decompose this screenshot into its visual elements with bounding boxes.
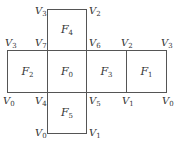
vertex-subscript: 5 <box>96 100 100 108</box>
face-letter: F <box>100 64 108 77</box>
vertex-subscript: 4 <box>42 100 46 108</box>
face-letter: F <box>61 64 69 77</box>
vertex-label-v3: V3 <box>5 38 17 50</box>
face-subscript: 3 <box>108 70 112 78</box>
vertex-subscript: 0 <box>169 100 173 108</box>
vertex-label-v2: V2 <box>121 38 133 50</box>
vertex-label-v0: V0 <box>162 96 174 108</box>
vertex-subscript: 3 <box>42 10 46 18</box>
face-label-f3: F3 <box>100 65 112 78</box>
vertex-label-v5: V5 <box>89 96 101 108</box>
vertex-label-v3: V3 <box>35 6 47 18</box>
vertex-label-v7: V7 <box>35 38 47 50</box>
vertex-subscript: 6 <box>96 42 100 50</box>
vertex-subscript: 7 <box>42 42 46 50</box>
vertex-subscript: 3 <box>12 42 16 50</box>
vertex-subscript: 2 <box>96 10 100 18</box>
vertex-subscript: 3 <box>168 42 172 50</box>
face-label-f2: F2 <box>21 65 33 78</box>
vertex-label-v1: V1 <box>89 128 101 140</box>
vertex-label-v0: V0 <box>35 128 47 140</box>
vertex-subscript: 2 <box>128 42 132 50</box>
face-letter: F <box>61 23 69 36</box>
cube-net-diagram: F4F2F0F3F1F5V3V2V3V7V6V2V3V0V4V5V1V0V0V1 <box>0 0 175 146</box>
face-subscript: 4 <box>69 29 73 37</box>
face-subscript: 5 <box>69 112 73 120</box>
vertex-subscript: 1 <box>129 100 133 108</box>
vertex-label-v1: V1 <box>122 96 134 108</box>
face-label-f0: F0 <box>61 65 73 78</box>
vertex-subscript: 0 <box>42 132 46 140</box>
vertex-subscript: 1 <box>96 132 100 140</box>
face-label-f5: F5 <box>61 107 73 120</box>
vertex-subscript: 0 <box>10 100 14 108</box>
vertex-label-v3: V3 <box>161 38 173 50</box>
face-subscript: 2 <box>29 70 33 78</box>
vertex-label-v0: V0 <box>3 96 15 108</box>
vertex-label-v4: V4 <box>35 96 47 108</box>
face-letter: F <box>21 64 29 77</box>
face-label-f4: F4 <box>61 24 73 37</box>
face-letter: F <box>61 106 69 119</box>
face-letter: F <box>140 64 148 77</box>
vertex-label-v6: V6 <box>89 38 101 50</box>
face-subscript: 1 <box>148 70 152 78</box>
face-label-f1: F1 <box>140 65 152 78</box>
vertex-label-v2: V2 <box>89 6 101 18</box>
face-subscript: 0 <box>69 70 73 78</box>
